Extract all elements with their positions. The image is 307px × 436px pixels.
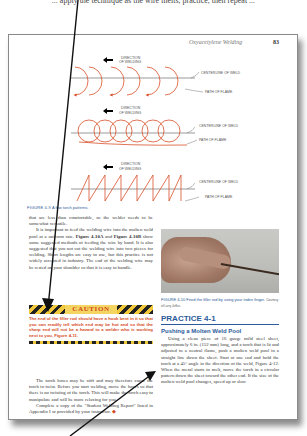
practice-subtitle: Pushing a Molten Weld Pool (161, 328, 241, 334)
direction-label: DIRECTION (121, 162, 141, 166)
caution-stripe-bottom (29, 341, 153, 344)
cut-off-heading-text: ... apply the technique as the wire melt… (0, 0, 307, 8)
centerline-label: CENTERLINE OF WELD (201, 71, 241, 75)
centerline-label: CENTERLINE OF WELD (199, 180, 239, 184)
figure-label: FIGURE 4-9 (27, 205, 51, 210)
end-of-section-icon: ◆ (112, 409, 116, 414)
text-run: and (103, 234, 113, 239)
figure-4-9-torch-patterns: DIRECTION OF WELDING CENTERLINE OF WELD … (9, 47, 297, 205)
caption-text: Feed the filler rod by using your index … (186, 297, 265, 302)
paragraph: The torch hoses may be stiff and may the… (29, 378, 153, 403)
pattern-circular: DIRECTION OF WELDING CENTERLINE OF WELD … (71, 106, 239, 145)
figure-4-10-photo (161, 229, 279, 293)
caution-text: The end of the filler rod should have a … (29, 316, 153, 338)
caution-stripe-bar: CAUTION (29, 305, 153, 314)
textbook-page: Oxyacetylene Welding 83 DIRECTION OF WEL… (8, 34, 298, 420)
left-column-text: that are less than comfortable, so the w… (29, 215, 153, 271)
direction-label: OF WELDING (119, 167, 141, 171)
pattern-zigzag: DIRECTION OF WELDING CENTERLINE OF WELD … (71, 162, 239, 201)
centerline-label: CENTERLINE OF WELD (199, 124, 239, 128)
right-column-text: Using a clean piece of 16 gauge mild ste… (161, 336, 279, 386)
text-run: show some suggested methods of feeding t… (29, 234, 153, 270)
direction-label: OF WELDING (119, 60, 141, 64)
figure-4-10-caption: FIGURE 4-10 Feed the filler rod by using… (161, 297, 279, 309)
paragraph: It is important to feed the welding wire… (29, 227, 153, 270)
pattern-half-circle: DIRECTION OF WELDING CENTERLINE OF WELD … (71, 56, 241, 95)
paragraph: that are less than comfortable, so the w… (29, 215, 153, 227)
figure-label: FIGURE 4-10 (161, 297, 185, 302)
caution-title: CAUTION (65, 305, 117, 314)
caption-text: A few torch patterns. (52, 205, 88, 210)
caution-box: CAUTION The end of the filler rod should… (29, 305, 153, 344)
text-run: Complete a copy of the "Student Welding … (29, 403, 153, 414)
practice-title: PRACTICE 4-1 (161, 314, 279, 325)
path-of-flame-label: PATH OF FLAME (199, 138, 227, 142)
page-number: 83 (273, 39, 279, 45)
figure-4-9-caption: FIGURE 4-9 A few torch patterns. (27, 205, 88, 210)
figure-ref-link[interactable]: Figure 4-10A (76, 234, 104, 239)
left-column-text-2: The torch hoses may be stiff and may the… (29, 378, 153, 415)
paragraph: Using a clean piece of 16 gauge mild ste… (161, 336, 279, 386)
paragraph: Complete a copy of the "Student Welding … (29, 403, 153, 415)
path-of-flame-label: PATH OF FLAME (205, 195, 233, 199)
running-head: Oxyacetylene Welding (189, 39, 242, 45)
direction-label: OF WELDING (119, 111, 141, 115)
path-of-flame-label: PATH OF FLAME (205, 90, 233, 94)
direction-label: DIRECTION (121, 106, 141, 110)
figure-ref-link[interactable]: Figure 4-10B (114, 234, 141, 239)
